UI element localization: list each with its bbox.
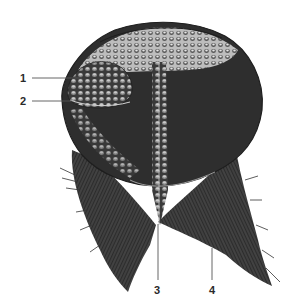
anatomical-illustration [0,0,292,306]
label-1: 1 [20,73,26,84]
label-4: 4 [209,285,215,296]
label-3: 3 [154,285,160,296]
label-2: 2 [20,96,26,107]
central-ridge [152,62,168,225]
